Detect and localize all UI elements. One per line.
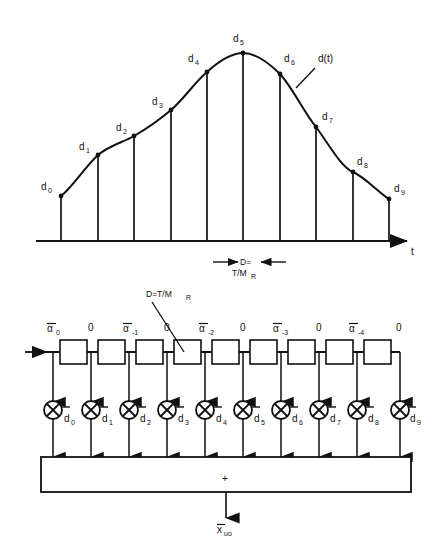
svg-text:-4: -4 bbox=[358, 329, 364, 336]
svg-text:uo: uo bbox=[224, 530, 232, 537]
tap-label-3: 0 bbox=[164, 322, 170, 333]
sample-label-d1: d 1 bbox=[79, 141, 90, 154]
sample-points bbox=[59, 51, 392, 202]
svg-text:d: d bbox=[116, 122, 122, 133]
svg-text:d: d bbox=[368, 413, 374, 424]
tap-coefficient-labels: α 0 0 α -1 0 α -2 bbox=[47, 322, 402, 336]
svg-text:d: d bbox=[254, 413, 260, 424]
delay-block-2 bbox=[98, 340, 125, 364]
svg-text:0: 0 bbox=[164, 322, 170, 333]
sample-label-d3: d 3 bbox=[152, 96, 163, 109]
svg-text:-3: -3 bbox=[282, 329, 288, 336]
multiplier-3: d 3 bbox=[158, 401, 189, 426]
point-d5 bbox=[241, 51, 246, 56]
svg-text:α: α bbox=[123, 323, 129, 334]
multiplier-4: d 4 bbox=[196, 401, 227, 426]
point-d6 bbox=[278, 72, 283, 77]
svg-text:d: d bbox=[79, 141, 85, 152]
top-plot-group: t bbox=[36, 33, 414, 280]
svg-text:d: d bbox=[322, 111, 328, 122]
svg-text:-2: -2 bbox=[208, 329, 214, 336]
svg-text:D=T/M: D=T/M bbox=[146, 289, 172, 299]
svg-text:α: α bbox=[273, 323, 279, 334]
transversal-filter-group: α 0 0 α -1 0 α -2 bbox=[25, 289, 421, 537]
svg-text:8: 8 bbox=[375, 419, 379, 426]
tap-label-9: 0 bbox=[396, 322, 402, 333]
svg-text:9: 9 bbox=[417, 419, 421, 426]
svg-text:1: 1 bbox=[86, 147, 90, 154]
output-label: x uo bbox=[217, 524, 232, 537]
svg-text:2: 2 bbox=[123, 128, 127, 135]
figure-canvas: t bbox=[0, 0, 430, 548]
svg-text:R: R bbox=[186, 294, 191, 301]
delay-block-8 bbox=[326, 340, 353, 364]
svg-text:8: 8 bbox=[364, 162, 368, 169]
svg-text:6: 6 bbox=[299, 419, 303, 426]
sample-label-d5: d 5 bbox=[233, 33, 244, 46]
tap-label-4: α -2 bbox=[199, 323, 214, 336]
svg-text:4: 4 bbox=[223, 419, 227, 426]
svg-text:d: d bbox=[64, 413, 70, 424]
svg-text:d: d bbox=[330, 413, 336, 424]
point-d8 bbox=[351, 170, 356, 175]
svg-text:-1: -1 bbox=[132, 329, 138, 336]
svg-text:5: 5 bbox=[240, 39, 244, 46]
svg-text:d: d bbox=[41, 181, 47, 192]
svg-text:α: α bbox=[199, 323, 205, 334]
multiplier-5: d 5 bbox=[234, 401, 265, 426]
multipliers: d 0 d 1 d 2 bbox=[44, 401, 421, 426]
svg-text:d: d bbox=[152, 96, 158, 107]
sample-label-d9: d 9 bbox=[394, 183, 405, 196]
delay-block-3 bbox=[136, 340, 163, 364]
svg-text:d: d bbox=[140, 413, 146, 424]
delay-block-1 bbox=[60, 340, 87, 364]
svg-text:x: x bbox=[217, 524, 222, 535]
sample-spacing-annotation: D= T/M R bbox=[213, 257, 286, 280]
svg-text:2: 2 bbox=[147, 419, 151, 426]
svg-text:4: 4 bbox=[195, 59, 199, 66]
svg-text:d: d bbox=[394, 183, 400, 194]
delay-block-9 bbox=[364, 340, 391, 364]
point-d1 bbox=[96, 153, 101, 158]
multiplier-1: d 1 bbox=[82, 401, 113, 426]
svg-text:d: d bbox=[410, 413, 416, 424]
sample-label-d0: d 0 bbox=[41, 181, 52, 194]
svg-text:0: 0 bbox=[316, 322, 322, 333]
point-d3 bbox=[169, 108, 174, 113]
svg-text:0: 0 bbox=[71, 419, 75, 426]
svg-text:0: 0 bbox=[48, 187, 52, 194]
multiplier-7: d 7 bbox=[310, 401, 341, 426]
svg-text:0: 0 bbox=[56, 329, 60, 336]
svg-text:3: 3 bbox=[185, 419, 189, 426]
svg-text:7: 7 bbox=[337, 419, 341, 426]
svg-text:d: d bbox=[102, 413, 108, 424]
point-d9 bbox=[387, 197, 392, 202]
spacing-label-line1: D= bbox=[240, 257, 251, 267]
curve-label: d(t) bbox=[318, 53, 333, 64]
svg-text:5: 5 bbox=[261, 419, 265, 426]
svg-text:3: 3 bbox=[159, 102, 163, 109]
svg-text:9: 9 bbox=[401, 189, 405, 196]
sample-label-d8: d 8 bbox=[357, 156, 368, 169]
tap-label-1: 0 bbox=[88, 322, 94, 333]
svg-text:0: 0 bbox=[88, 322, 94, 333]
technical-diagram: t bbox=[0, 0, 430, 548]
svg-text:d: d bbox=[292, 413, 298, 424]
impulse-response-curve bbox=[61, 53, 389, 199]
svg-text:d: d bbox=[178, 413, 184, 424]
svg-text:d: d bbox=[188, 53, 194, 64]
delay-block-5 bbox=[212, 340, 239, 364]
svg-text:T/M: T/M bbox=[232, 268, 247, 278]
multiplier-0: d 0 bbox=[44, 401, 75, 426]
multiplier-9: d 9 bbox=[391, 401, 421, 426]
svg-text:α: α bbox=[349, 323, 355, 334]
svg-text:7: 7 bbox=[329, 117, 333, 124]
tap-label-5: 0 bbox=[240, 322, 246, 333]
tap-label-7: 0 bbox=[316, 322, 322, 333]
svg-text:d: d bbox=[357, 156, 363, 167]
svg-text:0: 0 bbox=[240, 322, 246, 333]
point-d4 bbox=[205, 70, 210, 75]
svg-text:6: 6 bbox=[291, 59, 295, 66]
tap-label-0: α 0 bbox=[47, 323, 60, 336]
multiplier-2: d 2 bbox=[120, 401, 151, 426]
